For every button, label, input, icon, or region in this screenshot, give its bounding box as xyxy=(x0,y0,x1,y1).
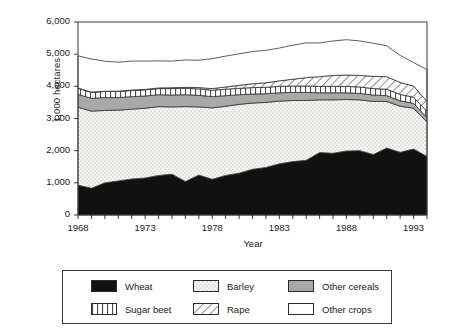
y-tick-label: 4,000 xyxy=(30,79,70,90)
x-tick-label: 1978 xyxy=(192,222,232,233)
legend-swatch-vertical-lines xyxy=(91,303,117,315)
legend-item-rape: Rape xyxy=(193,298,250,320)
legend-swatch-solid-gray xyxy=(288,280,314,292)
stacked-areas xyxy=(78,40,427,215)
legend-label: Wheat xyxy=(125,281,152,292)
x-tick-label: 1983 xyxy=(259,222,299,233)
legend-label: Rape xyxy=(227,304,250,315)
legend-label: Sugar beet xyxy=(125,304,171,315)
legend-item-sugar-beet: Sugar beet xyxy=(91,298,171,320)
legend-swatch-solid-black xyxy=(91,280,117,292)
stacked-area-chart-figure: 1,000 hectares Year 01,0002,0003,0004,00… xyxy=(0,0,454,334)
y-tick-label: 3,000 xyxy=(30,112,70,123)
x-axis-title: Year xyxy=(78,238,428,249)
legend-swatch-diagonal-hatch xyxy=(193,303,219,315)
y-tick-label: 2,000 xyxy=(30,144,70,155)
x-tick-label: 1968 xyxy=(58,222,98,233)
legend-label: Other crops xyxy=(322,304,372,315)
legend-item-other-crops: Other crops xyxy=(288,298,372,320)
legend-swatch-fine-dots xyxy=(193,280,219,292)
legend-item-wheat: Wheat xyxy=(91,275,152,297)
y-tick-label: 5,000 xyxy=(30,47,70,58)
x-tick-label: 1988 xyxy=(326,222,366,233)
y-tick-label: 1,000 xyxy=(30,176,70,187)
y-tick-label: 0 xyxy=(30,208,70,219)
y-tick-label: 6,000 xyxy=(30,15,70,26)
legend-item-barley: Barley xyxy=(193,275,254,297)
x-tick-label: 1973 xyxy=(125,222,165,233)
x-tick-label: 1993 xyxy=(394,222,434,233)
legend-label: Barley xyxy=(227,281,254,292)
chart-legend: WheatBarleyOther cerealsSugar beetRapeOt… xyxy=(62,270,392,324)
legend-swatch-plain-white xyxy=(288,303,314,315)
legend-item-other-cereals: Other cereals xyxy=(288,275,379,297)
legend-label: Other cereals xyxy=(322,281,379,292)
